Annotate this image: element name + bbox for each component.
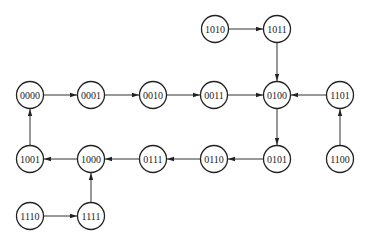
state-label: 0000 (20, 90, 40, 101)
state-label: 0100 (267, 90, 287, 101)
state-label: 0001 (81, 90, 101, 101)
state-label: 1110 (20, 211, 39, 222)
state-node-0111: 0111 (140, 146, 167, 173)
state-label: 0110 (204, 154, 224, 165)
state-node-1001: 1001 (17, 146, 44, 173)
state-label: 1101 (330, 90, 350, 101)
state-label: 1011 (267, 24, 287, 35)
state-label: 1100 (330, 154, 350, 165)
edges (30, 29, 340, 216)
state-label: 0111 (143, 154, 162, 165)
state-label: 0011 (204, 90, 224, 101)
state-node-0100: 0100 (264, 82, 291, 109)
state-node-1100: 1100 (327, 146, 354, 173)
state-label: 1001 (20, 154, 40, 165)
state-node-0000: 0000 (17, 82, 44, 109)
state-node-1000: 1000 (78, 146, 105, 173)
state-node-0101: 0101 (264, 146, 291, 173)
state-node-1010: 1010 (202, 16, 229, 43)
state-node-0010: 0010 (140, 82, 167, 109)
state-node-1111: 1111 (78, 203, 105, 230)
state-label: 1010 (205, 24, 225, 35)
state-label: 0101 (267, 154, 287, 165)
state-node-1011: 1011 (264, 16, 291, 43)
state-node-0001: 0001 (78, 82, 105, 109)
state-node-0110: 0110 (201, 146, 228, 173)
state-diagram: 1010101100000001001000110100110110011000… (0, 0, 367, 243)
state-node-0011: 0011 (201, 82, 228, 109)
state-label: 1111 (82, 211, 101, 222)
state-node-1101: 1101 (327, 82, 354, 109)
nodes: 1010101100000001001000110100110110011000… (17, 16, 354, 230)
state-label: 1000 (81, 154, 101, 165)
state-label: 0010 (143, 90, 163, 101)
state-node-1110: 1110 (17, 203, 44, 230)
